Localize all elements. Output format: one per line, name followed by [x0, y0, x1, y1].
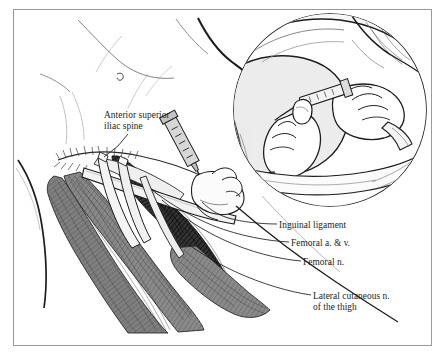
- label-lateral-cutaneous-nerve: Lateral cutaneous n.of the thigh: [313, 291, 390, 314]
- label-femoral-nerve: Femoral n.: [303, 257, 344, 268]
- label-femoral-artery-and-vein: Femoral a. & v.: [291, 238, 350, 249]
- figure-root: Anterior superioriliac spine Inguinal li…: [0, 0, 447, 360]
- label-inguinal-ligament: Inguinal ligament: [279, 220, 346, 231]
- label-line: Anterior superior: [104, 110, 170, 120]
- label-line: Lateral cutaneous n.: [313, 291, 390, 301]
- label-line: iliac spine: [104, 121, 143, 131]
- label-line: of the thigh: [313, 302, 357, 312]
- label-anterior-superior-iliac-spine: Anterior superioriliac spine: [104, 110, 170, 133]
